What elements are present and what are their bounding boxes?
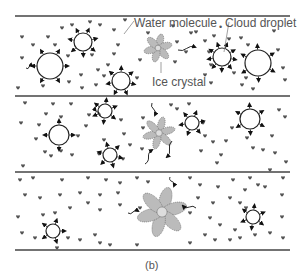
water-molecule-icon bbox=[277, 108, 281, 111]
water-molecule-icon bbox=[219, 153, 223, 156]
evaporation-arrow bbox=[228, 64, 231, 67]
evaporation-arrow bbox=[230, 50, 234, 52]
water-molecule-icon bbox=[53, 211, 57, 214]
ice-crystal-icon bbox=[143, 33, 172, 62]
evaporation-arrow bbox=[213, 64, 216, 67]
evaporation-arrow bbox=[243, 70, 247, 72]
water-molecule-icon bbox=[76, 134, 80, 137]
water-molecule-icon bbox=[116, 43, 120, 46]
figure-caption: (b) bbox=[145, 260, 158, 271]
evaporation-arrow bbox=[112, 106, 116, 108]
evaporation-arrow bbox=[102, 160, 105, 163]
water-molecule-icon bbox=[138, 58, 142, 61]
evaporation-arrow bbox=[130, 83, 134, 84]
evaporation-arrow bbox=[259, 111, 263, 113]
evaporation-arrow bbox=[270, 69, 274, 71]
cloud-droplet-icon bbox=[237, 104, 263, 134]
water-molecule-icon bbox=[93, 233, 97, 236]
water-molecule-icon bbox=[184, 50, 188, 53]
diffusion-arrow bbox=[26, 65, 32, 68]
evaporation-arrow bbox=[259, 124, 263, 126]
water-molecule-icon bbox=[112, 28, 116, 31]
water-molecule-icon bbox=[123, 18, 127, 21]
water-molecule-icon bbox=[16, 215, 20, 218]
water-molecule-icon bbox=[263, 185, 267, 188]
evaporation-arrow bbox=[242, 220, 246, 222]
evaporation-arrow bbox=[107, 143, 108, 147]
water-molecule-icon bbox=[96, 68, 100, 71]
water-molecule-icon bbox=[240, 83, 244, 86]
water-molecule-icon bbox=[138, 206, 142, 209]
cloud-droplet-icon bbox=[107, 67, 134, 94]
water-molecule-icon bbox=[245, 136, 249, 139]
water-molecule-icon bbox=[207, 50, 211, 53]
water-molecule-icon bbox=[104, 178, 108, 181]
water-molecule-icon bbox=[169, 103, 173, 106]
water-molecule-icon bbox=[55, 246, 59, 249]
water-molecule-icon bbox=[66, 236, 70, 239]
evaporation-arrow bbox=[237, 125, 241, 127]
evaporation-arrow bbox=[208, 58, 212, 59]
water-molecule-icon bbox=[283, 78, 287, 81]
water-molecule-icon bbox=[119, 118, 123, 121]
water-molecule-icon bbox=[41, 213, 45, 216]
evaporation-arrow bbox=[117, 157, 121, 158]
water-molecule-icon bbox=[203, 134, 207, 137]
water-molecule-icon bbox=[218, 223, 222, 226]
water-molecule-icon bbox=[18, 178, 22, 181]
water-molecule-icon bbox=[280, 193, 284, 196]
water-molecule-icon bbox=[209, 81, 213, 84]
evaporation-arrow bbox=[69, 39, 73, 40]
water-molecule-icon bbox=[141, 116, 145, 119]
water-molecule-icon bbox=[276, 48, 280, 51]
water-molecule-icon bbox=[128, 143, 132, 146]
water-molecule-icon bbox=[122, 132, 126, 135]
water-molecule-icon bbox=[34, 137, 38, 140]
water-molecule-icon bbox=[102, 74, 106, 77]
water-molecule-icon bbox=[251, 87, 255, 90]
water-molecule-icon bbox=[194, 30, 198, 33]
cloud-droplet-icon bbox=[69, 29, 96, 56]
water-molecule-icon bbox=[246, 43, 250, 46]
water-molecule-icon bbox=[188, 176, 192, 179]
evaporation-arrow bbox=[111, 116, 115, 119]
water-molecule-icon bbox=[20, 56, 24, 59]
water-molecule-icon bbox=[209, 63, 213, 66]
ice-crystal-label: Ice crystal bbox=[152, 76, 206, 88]
evaporation-arrow bbox=[57, 50, 59, 54]
water-molecule-icon bbox=[231, 178, 235, 181]
evaporation-arrow bbox=[125, 90, 127, 94]
water-molecule-icon bbox=[135, 176, 139, 179]
evaporation-arrow bbox=[92, 39, 96, 40]
water-molecule-icon bbox=[41, 84, 45, 87]
evaporation-arrow bbox=[259, 222, 263, 225]
water-molecule-icon bbox=[281, 66, 285, 69]
water-molecule-icon bbox=[23, 193, 27, 196]
water-molecule-icon bbox=[211, 140, 215, 143]
evaporation-arrow bbox=[110, 72, 113, 75]
water-molecule-icon bbox=[44, 112, 48, 115]
evaporation-arrow bbox=[197, 129, 200, 132]
evaporation-arrow bbox=[104, 118, 105, 122]
water-molecule-icon bbox=[19, 121, 23, 124]
water-molecule-icon bbox=[43, 150, 47, 153]
water-molecule-icon bbox=[20, 35, 24, 38]
water-molecule-icon bbox=[224, 139, 228, 142]
water-molecule-icon bbox=[251, 146, 255, 149]
water-molecule-icon bbox=[256, 183, 260, 186]
water-molecule-icon bbox=[84, 124, 88, 127]
cloud-droplet-icon bbox=[208, 44, 236, 71]
water-molecule-icon bbox=[79, 73, 83, 76]
diffusion-arrow bbox=[145, 150, 152, 164]
diffusion-arrow bbox=[151, 103, 155, 115]
water-molecule-icon bbox=[239, 36, 243, 39]
water-molecule-icon bbox=[261, 148, 265, 151]
water-molecule-icon bbox=[66, 54, 70, 57]
cloud-droplet-icon bbox=[43, 220, 65, 243]
evaporation-arrow bbox=[243, 210, 247, 213]
water-molecule-icon bbox=[38, 196, 42, 199]
water-molecule-icon bbox=[212, 34, 216, 37]
diffusion-arrow bbox=[170, 177, 175, 186]
cloud-droplet-icon bbox=[180, 112, 204, 134]
water-molecule-icon bbox=[146, 180, 150, 183]
